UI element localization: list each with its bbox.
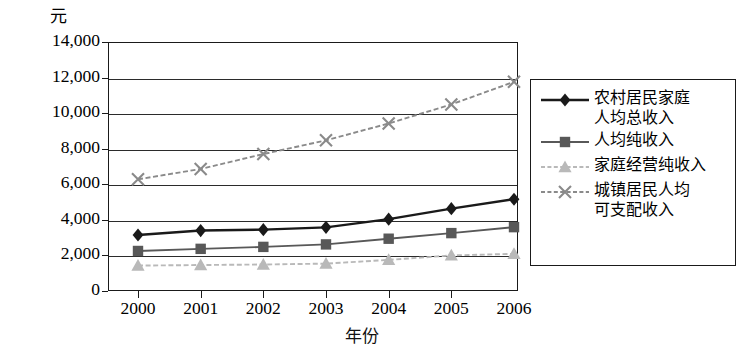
- legend-marker-diamond-icon: [539, 89, 591, 111]
- y-axis-tick-label: 4,000: [0, 208, 100, 229]
- gridline: [109, 256, 517, 257]
- x-axis-tickmark: [201, 291, 202, 298]
- y-axis-tick-label: 2,000: [0, 243, 100, 264]
- y-axis-tickmark: [102, 149, 108, 150]
- y-axis-tickmark: [102, 113, 108, 114]
- x-axis-title-text: 年份: [345, 326, 379, 346]
- legend-marker-triangle-icon: [539, 156, 591, 178]
- x-axis-tickmark: [451, 291, 452, 298]
- x-axis-tick-label: 2003: [296, 298, 356, 319]
- y-axis-tick-label: 12,000: [0, 66, 100, 87]
- y-axis-tickmark: [102, 220, 108, 221]
- legend-label: 人均纯收入: [594, 130, 674, 150]
- x-axis-title: 年份: [0, 322, 746, 347]
- legend-item: 人均纯收入: [539, 130, 731, 153]
- y-axis-tickmark: [102, 78, 108, 79]
- x-axis-tickmark: [138, 291, 139, 298]
- x-axis-tick-label: 2000: [108, 298, 168, 319]
- legend-label: 家庭经营纯收入: [594, 155, 706, 175]
- legend-item: 城镇居民人均 可支配收入: [539, 180, 731, 220]
- y-axis-tick-label: 0: [0, 279, 100, 300]
- income-line-chart: 元 02,0004,0006,0008,00010,00012,00014,00…: [0, 0, 746, 351]
- x-axis-tick-label: 2005: [421, 298, 481, 319]
- gridline: [109, 114, 517, 115]
- legend-item: 农村居民家庭 人均总收入: [539, 88, 731, 128]
- x-axis-tick-label: 2001: [171, 298, 231, 319]
- legend-marker-square-icon: [539, 131, 591, 153]
- y-axis-tickmark: [102, 291, 108, 292]
- legend-item: 家庭经营纯收入: [539, 155, 731, 178]
- y-axis-tick-label: 10,000: [0, 101, 100, 122]
- legend-label: 城镇居民人均 可支配收入: [594, 180, 690, 220]
- y-axis-tickmark: [102, 255, 108, 256]
- plot-area: [108, 42, 518, 291]
- x-axis-tick-label: 2006: [484, 298, 544, 319]
- x-axis-tickmark: [263, 291, 264, 298]
- x-axis-tickmark: [389, 291, 390, 298]
- legend-marker-cross-icon: [539, 181, 591, 203]
- legend: 农村居民家庭 人均总收入人均纯收入家庭经营纯收入城镇居民人均 可支配收入: [530, 79, 736, 266]
- legend-label: 农村居民家庭 人均总收入: [594, 88, 690, 128]
- gridline: [109, 221, 517, 222]
- legend-items: 农村居民家庭 人均总收入人均纯收入家庭经营纯收入城镇居民人均 可支配收入: [539, 88, 731, 222]
- x-axis-tick-label: 2002: [233, 298, 293, 319]
- gridline: [109, 79, 517, 80]
- x-axis-tickmark: [326, 291, 327, 298]
- y-axis-tick-label: 8,000: [0, 137, 100, 158]
- y-axis-tickmark: [102, 42, 108, 43]
- y-axis-tick-label: 14,000: [0, 30, 100, 51]
- x-axis-tick-label: 2004: [359, 298, 419, 319]
- gridline: [109, 185, 517, 186]
- y-axis-tick-label: 6,000: [0, 172, 100, 193]
- gridline: [109, 150, 517, 151]
- y-axis-tickmark: [102, 184, 108, 185]
